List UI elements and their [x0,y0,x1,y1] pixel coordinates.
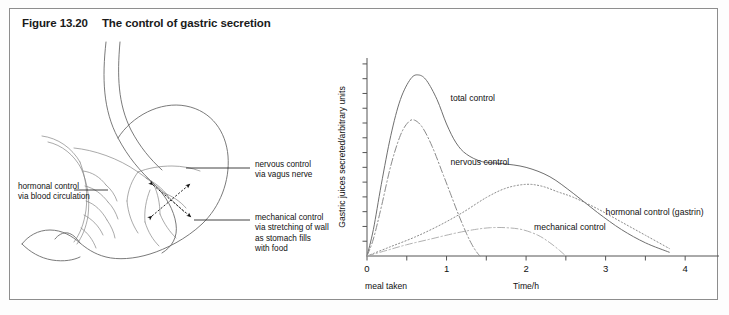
chart-series [367,75,669,256]
annotation-nervous-control: nervous control via vagus nerve [255,160,312,181]
series-label-1: nervous control [451,157,510,167]
stomach-diagram-panel: nervous control via vagus nerve hormonal… [14,38,344,288]
series-label-0: total control [451,93,496,103]
annotation-hormonal-control: hormonal control via blood circulation [18,182,90,203]
figure-caption: The control of gastric secretion [102,17,271,29]
figure-number: Figure 13.20 [22,17,88,29]
series-curve-3 [367,227,566,256]
x-axis-title: Time/h [513,281,539,291]
x-tick-label: 2 [523,263,528,274]
x-tick-label: 4 [683,263,688,274]
meal-taken-label: meal taken [365,281,407,291]
annotation-mechanical-control: mechanical control via stretching of wal… [255,213,329,255]
series-curve-2 [367,184,669,256]
x-tick-label: 1 [444,263,449,274]
series-label-3: mechanical control [534,222,606,232]
series-curve-1 [367,120,480,256]
stretch-arrows [152,184,191,217]
gastric-secretion-chart: 01234 total controlnervous controlhormon… [333,34,725,296]
figure-root: Figure 13.20The control of gastric secre… [0,0,729,315]
chart-text: total controlnervous controlhormonal con… [337,86,704,291]
x-tick-label: 0 [364,263,369,274]
x-tick-label: 3 [603,263,608,274]
y-axis-title: Gastric juices secreted/arbitrary units [337,86,347,227]
gastric-secretion-chart-panel: 01234 total controlnervous controlhormon… [333,34,725,296]
page-title: Figure 13.20The control of gastric secre… [22,17,271,29]
series-label-2: hormonal control (gastrin) [606,207,704,217]
chart-axes: 01234 [363,58,720,274]
